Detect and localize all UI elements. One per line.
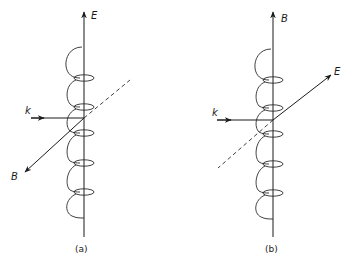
- figure-canvas: E k B (a) B: [0, 0, 349, 268]
- b-axis-arrow: [25, 118, 84, 172]
- panel-b: B k E (b): [212, 12, 341, 254]
- b-axis-label: B: [281, 13, 288, 24]
- k-axis-label: k: [25, 105, 32, 116]
- b-axis-label: B: [11, 171, 18, 182]
- panel-a: E k B (a): [11, 10, 130, 254]
- panel-a-caption: (a): [75, 244, 88, 254]
- k-axis-label: k: [212, 107, 219, 118]
- helix-spiral: [255, 49, 283, 219]
- panel-b-caption: (b): [265, 244, 278, 254]
- e-axis-label: E: [91, 10, 98, 21]
- e-axis-label: E: [334, 66, 341, 77]
- helix-spiral: [66, 47, 94, 218]
- dashed-axis-line: [84, 80, 130, 118]
- dashed-axis-line: [218, 120, 273, 168]
